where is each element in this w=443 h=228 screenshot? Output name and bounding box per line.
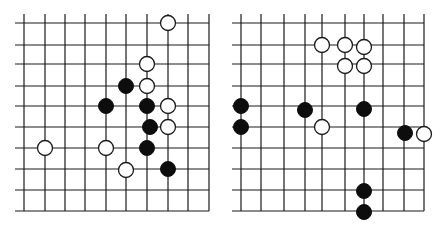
black-stone (357, 102, 372, 117)
black-stone (357, 205, 372, 220)
white-stone (338, 59, 353, 74)
white-stone (140, 57, 155, 72)
white-stone (357, 59, 372, 74)
black-stone (357, 184, 372, 199)
white-stone (315, 120, 330, 135)
white-stone (161, 99, 176, 114)
left-board-grid (15, 14, 209, 211)
right-board-stones (234, 38, 432, 220)
black-stone (140, 141, 155, 156)
black-stone (119, 79, 134, 94)
white-stone (161, 120, 176, 135)
white-stone (38, 141, 53, 156)
black-stone (140, 99, 155, 114)
black-stone (143, 120, 158, 135)
white-stone (357, 40, 372, 55)
white-stone (119, 163, 134, 178)
white-stone (315, 38, 330, 53)
black-stone (234, 120, 249, 135)
white-stone (417, 127, 432, 142)
white-stone (161, 16, 176, 31)
black-stone (398, 126, 413, 141)
white-stone (99, 141, 114, 156)
right-board (232, 14, 432, 220)
black-stone (161, 162, 176, 177)
black-stone (99, 99, 114, 114)
black-stone (234, 99, 249, 114)
white-stone (338, 38, 353, 53)
go-diagram (0, 0, 443, 228)
white-stone (140, 79, 155, 94)
left-board (15, 14, 209, 211)
black-stone (298, 103, 313, 118)
